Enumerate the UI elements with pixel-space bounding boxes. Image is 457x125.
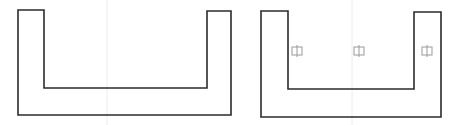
phi-marker-icon (422, 45, 432, 57)
phi-marker-icon (354, 45, 364, 57)
diagram-canvas (0, 0, 457, 125)
phi-marker-icon (292, 45, 302, 57)
u-profile-outline (18, 10, 231, 115)
u-channel-right (261, 0, 441, 125)
u-channel-left (18, 0, 231, 125)
u-profile-outline (261, 11, 441, 117)
